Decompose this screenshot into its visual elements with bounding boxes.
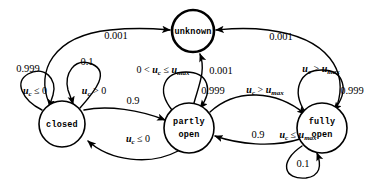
label-prob-fully-to-unknown: 0.001 <box>269 31 293 42</box>
unknown-node-label: unknown <box>174 27 211 37</box>
fully-open-node-label-line1: fully <box>309 117 336 127</box>
label-cond-closed-self-stay: uc ≤ 0 <box>23 85 47 97</box>
label-cond-closed-self-open: uc > 0 <box>82 85 106 97</box>
state-node-fully-open[interactable]: fully open <box>297 103 347 153</box>
state-diagram-canvas: unknown closed partly open fully open 0.… <box>0 0 377 183</box>
label-cond-partly-self: 0 < uc ≤ umax <box>137 64 190 76</box>
state-node-closed[interactable]: closed <box>39 101 85 147</box>
partly-open-node-circle[interactable] <box>164 103 214 153</box>
state-transition-diagram: unknown closed partly open fully open 0.… <box>0 0 377 183</box>
label-prob-partly-self: 0.999 <box>201 85 225 96</box>
label-prob-closed-self-open: 0.1 <box>80 56 93 67</box>
partly-open-node-label-line2: open <box>178 130 199 140</box>
closed-node-label: closed <box>46 120 78 130</box>
label-prob-closed-to-partly: 0.9 <box>126 95 139 106</box>
fully-open-node-circle[interactable] <box>297 103 347 153</box>
edge-closed-to-partly <box>84 108 165 120</box>
label-prob-fully-self-close: 0.1 <box>296 158 309 169</box>
label-prob-fully-to-partly: 0.9 <box>251 129 264 140</box>
label-prob-closed-self-stay: 0.999 <box>16 63 40 74</box>
label-prob-partly-to-unknown: 0.001 <box>209 65 233 76</box>
label-cond-partly-to-closed: uc ≤ 0 <box>126 133 150 145</box>
label-prob-fully-self-stay: 0.999 <box>340 85 364 96</box>
state-node-partly-open[interactable]: partly open <box>164 103 214 153</box>
state-node-unknown[interactable]: unknown <box>172 10 214 52</box>
partly-open-node-label-line1: partly <box>173 117 205 127</box>
label-cond-partly-to-fully: uc > umax <box>246 84 284 96</box>
label-prob-closed-to-unknown: 0.001 <box>104 30 128 41</box>
edge-partly-to-fully <box>210 95 305 114</box>
